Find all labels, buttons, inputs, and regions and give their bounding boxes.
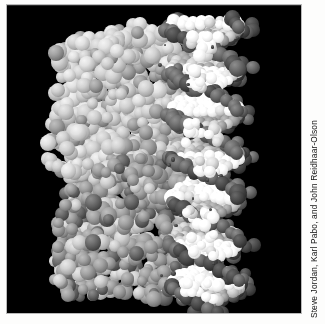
atom-sphere <box>233 274 245 286</box>
atom-sphere <box>176 250 188 262</box>
atom-sphere <box>112 73 127 88</box>
atom-sphere <box>184 295 194 305</box>
atom-sphere <box>181 137 191 147</box>
atom-sphere <box>83 184 97 198</box>
atom-sphere <box>177 156 187 166</box>
atom-sphere <box>133 270 148 285</box>
atom-sphere <box>113 34 124 45</box>
atom-sphere <box>85 234 99 248</box>
atom-sphere <box>194 85 204 95</box>
atom-sphere <box>233 19 245 31</box>
atom-sphere <box>180 269 192 281</box>
atom-sphere <box>115 205 130 220</box>
atom-sphere <box>186 132 202 148</box>
atom-sphere <box>149 104 164 119</box>
atom-sphere <box>164 127 179 142</box>
atom-sphere <box>174 206 190 222</box>
atom-sphere <box>105 276 119 290</box>
atom-sphere <box>230 58 242 70</box>
atom-sphere <box>191 227 203 239</box>
atom-sphere <box>78 135 94 151</box>
atom-sphere <box>143 232 154 243</box>
atom-sphere <box>129 151 141 163</box>
atom-sphere <box>116 203 130 217</box>
atom-sphere <box>61 288 75 302</box>
atom-sphere <box>224 241 233 250</box>
atom-sphere <box>171 276 185 290</box>
atom-sphere <box>154 80 165 91</box>
atom-sphere <box>121 211 137 227</box>
atom-sphere <box>113 159 125 171</box>
atom-sphere <box>109 240 121 252</box>
atom-sphere <box>114 230 131 247</box>
atom-sphere <box>212 125 223 136</box>
atom-sphere <box>210 179 221 190</box>
atom-sphere <box>171 107 188 124</box>
atom-sphere <box>126 73 137 84</box>
atom-sphere <box>143 130 157 144</box>
atom-sphere <box>134 176 147 189</box>
atom-sphere <box>54 137 69 152</box>
atom-sphere <box>89 171 100 182</box>
atom-sphere <box>83 251 96 264</box>
atom-sphere <box>176 276 185 285</box>
atom-sphere <box>135 213 149 227</box>
atom-sphere <box>111 64 125 78</box>
atom-sphere <box>172 107 185 120</box>
atom-sphere <box>148 55 159 66</box>
atom-sphere <box>92 85 106 99</box>
atom-sphere <box>99 211 115 227</box>
atom-sphere <box>178 94 191 107</box>
atom-sphere <box>151 168 168 185</box>
atom-sphere <box>204 297 218 311</box>
atom-sphere <box>245 17 260 32</box>
atom-sphere <box>179 131 192 144</box>
atom-sphere <box>195 67 206 78</box>
atom-sphere <box>108 152 122 166</box>
atom-sphere <box>101 157 115 171</box>
atom-sphere <box>183 48 195 60</box>
atom-sphere <box>196 63 205 72</box>
atom-sphere <box>174 182 186 194</box>
atom-sphere <box>225 183 237 195</box>
atom-sphere <box>115 30 132 47</box>
atom-sphere <box>102 96 115 109</box>
atom-sphere <box>140 272 153 285</box>
atom-sphere <box>102 177 113 188</box>
atom-sphere <box>181 237 191 247</box>
atom-sphere <box>201 280 212 291</box>
atom-sphere <box>196 126 210 140</box>
atom-sphere <box>202 162 213 173</box>
atom-sphere <box>169 100 182 113</box>
atom-sphere <box>121 273 135 287</box>
atom-sphere <box>132 175 142 185</box>
atom-sphere <box>139 267 153 281</box>
atom-sphere <box>162 171 178 187</box>
atom-sphere <box>141 120 156 135</box>
atom-sphere <box>66 78 81 93</box>
atom-sphere <box>200 110 209 119</box>
atom-sphere <box>195 145 206 156</box>
atom-sphere <box>183 106 194 117</box>
atom-sphere <box>122 80 134 92</box>
atom-sphere <box>162 19 176 33</box>
atom-sphere <box>113 94 127 108</box>
atom-sphere <box>219 94 230 105</box>
atom-sphere <box>223 161 233 171</box>
atom-sphere <box>64 267 79 282</box>
atom-sphere <box>211 209 224 222</box>
atom-sphere <box>193 194 204 205</box>
atom-sphere <box>201 254 213 266</box>
atom-sphere <box>204 85 217 98</box>
atom-sphere <box>158 63 162 67</box>
atom-sphere <box>204 205 213 214</box>
atom-sphere <box>135 249 146 260</box>
atom-sphere <box>128 235 143 250</box>
atom-sphere <box>156 150 167 161</box>
atom-sphere <box>195 172 207 184</box>
atom-sphere <box>213 293 224 304</box>
atom-sphere <box>159 69 175 85</box>
atom-sphere <box>111 239 122 250</box>
atom-sphere <box>70 169 82 181</box>
atom-sphere <box>72 65 88 81</box>
